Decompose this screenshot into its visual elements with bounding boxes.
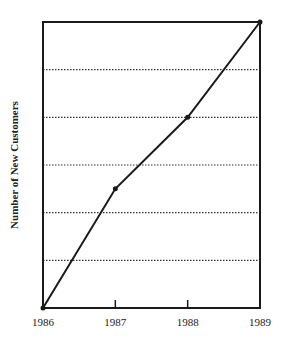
data-point (258, 20, 263, 25)
line-chart: 1986198719881989 Number of New Customers (0, 0, 281, 350)
data-point (113, 186, 118, 191)
gridlines (43, 70, 260, 261)
x-tick-label: 1988 (177, 316, 200, 328)
data-point (185, 115, 190, 120)
x-tick-label: 1986 (32, 316, 55, 328)
x-axis-labels: 1986198719881989 (32, 316, 272, 328)
x-tick-label: 1989 (249, 316, 272, 328)
x-axis-ticks (115, 300, 187, 308)
x-tick-label: 1987 (104, 316, 127, 328)
data-point (41, 306, 46, 311)
y-axis-title: Number of New Customers (8, 100, 20, 229)
